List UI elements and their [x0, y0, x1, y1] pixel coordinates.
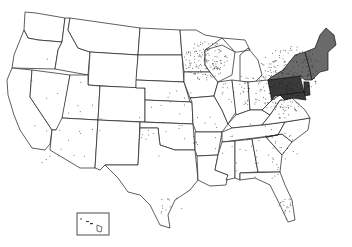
hawaii-inset	[77, 213, 109, 235]
state-arkansas	[195, 132, 222, 156]
state-outlines	[7, 12, 336, 228]
state-colorado	[98, 86, 145, 122]
us-dot-density-map	[0, 0, 352, 247]
state-washington	[24, 12, 65, 42]
state-south-dakota	[136, 55, 184, 82]
hawaii-islands	[80, 218, 102, 232]
state-florida	[240, 172, 295, 222]
state-new-york	[268, 52, 312, 80]
state-kansas	[145, 100, 193, 124]
state-north-dakota	[138, 28, 182, 55]
state-new-mexico	[95, 120, 140, 170]
state-new-jersey	[304, 82, 310, 96]
state-wyoming	[88, 52, 138, 88]
